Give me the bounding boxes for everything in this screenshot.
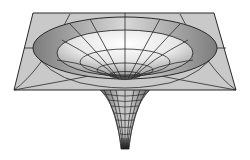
gravity-well-svg	[0, 0, 250, 160]
gravity-well-diagram: Curved spacetime gravity well	[0, 0, 250, 160]
funnel-throat	[98, 88, 152, 149]
